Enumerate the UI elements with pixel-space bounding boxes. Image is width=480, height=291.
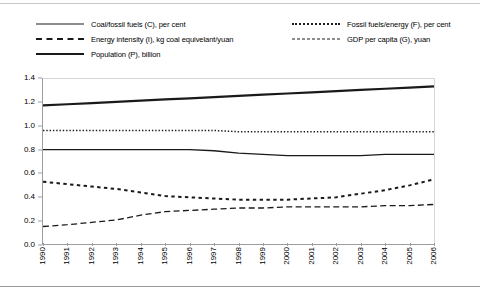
x-axis-tick-label: 1990	[39, 247, 47, 265]
x-axis-tick-mark	[92, 243, 93, 246]
x-axis-tick-mark	[214, 243, 215, 246]
x-axis-tick-mark	[116, 243, 117, 246]
y-axis-tick-label: 0.4	[1, 193, 35, 201]
x-axis-tick-label: 1995	[161, 247, 169, 265]
x-axis-tick-label: 2005	[406, 247, 414, 265]
x-axis-tick-mark	[361, 243, 362, 246]
x-axis-tick-mark	[67, 243, 68, 246]
bottom-divider	[0, 286, 480, 287]
legend-column-right: Fossil fuels/energy (F), per cent GDP pe…	[292, 17, 480, 47]
series-line	[43, 86, 434, 105]
series-line	[43, 130, 434, 131]
legend-label: Coal/fossil fuels (C), per cent	[91, 20, 185, 29]
y-axis-tick-label: 0.6	[1, 169, 35, 177]
line-style-swatch-icon	[36, 20, 84, 29]
x-axis-tick-label: 2001	[308, 247, 316, 265]
x-axis-tick-mark	[385, 243, 386, 246]
top-divider	[0, 3, 480, 4]
y-axis-tick-label: 0.2	[1, 217, 35, 225]
x-axis-tick-label: 1991	[63, 247, 71, 265]
x-axis-tick-mark	[239, 243, 240, 246]
x-axis-tick-label: 2004	[381, 247, 389, 265]
x-axis-tick-mark	[190, 243, 191, 246]
y-axis-tick-label: 0.8	[1, 146, 35, 154]
x-axis-tick-label: 1992	[88, 247, 96, 265]
plot-area	[42, 78, 435, 245]
legend-item-gdp-per-capita: GDP per capita (G), yuan	[292, 32, 480, 46]
y-axis-tick-label: 0.0	[1, 241, 35, 249]
legend-label: Population (P), billion	[91, 50, 160, 59]
series-line	[43, 179, 434, 199]
series-lines	[42, 78, 435, 245]
y-axis: 0.00.20.40.60.81.01.21.4	[0, 74, 40, 249]
x-axis-tick-mark	[434, 243, 435, 246]
series-line	[43, 204, 434, 226]
chart-figure: Coal/fossil fuels (C), per cent Energy i…	[0, 0, 480, 291]
x-axis-tick-label: 1998	[235, 247, 243, 265]
legend-item-fossil-fuels-energy: Fossil fuels/energy (F), per cent	[292, 17, 480, 31]
chart-legend: Coal/fossil fuels (C), per cent Energy i…	[36, 17, 456, 59]
x-axis-tick-mark	[336, 243, 337, 246]
x-axis-tick-label: 1997	[210, 247, 218, 265]
legend-label: Energy intensity (I), kg coal equivelant…	[91, 35, 233, 44]
x-axis-tick-label: 2006	[430, 247, 438, 265]
legend-item-coal-fossil-fuels: Coal/fossil fuels (C), per cent	[36, 17, 288, 31]
x-axis-tick-label: 1994	[137, 247, 145, 265]
legend-item-population: Population (P), billion	[36, 47, 288, 61]
y-axis-tick-label: 1.2	[1, 98, 35, 106]
legend-item-energy-intensity: Energy intensity (I), kg coal equivelant…	[36, 32, 288, 46]
legend-column-left: Coal/fossil fuels (C), per cent Energy i…	[36, 17, 288, 62]
x-axis-tick-mark	[312, 243, 313, 246]
x-axis-tick-label: 1996	[186, 247, 194, 265]
x-axis-tick-mark	[263, 243, 264, 246]
x-axis-tick-label: 1993	[112, 247, 120, 265]
x-axis-tick-mark	[287, 243, 288, 246]
line-style-swatch-icon	[36, 50, 84, 59]
legend-label: GDP per capita (G), yuan	[347, 35, 430, 44]
x-axis: 1990199119921993199419951996199719981999…	[42, 246, 435, 286]
x-axis-tick-label: 1999	[259, 247, 267, 265]
legend-label: Fossil fuels/energy (F), per cent	[347, 20, 450, 29]
y-axis-tick-label: 1.4	[1, 74, 35, 82]
x-axis-tick-mark	[43, 243, 44, 246]
line-style-swatch-icon	[292, 20, 340, 29]
y-axis-tick-label: 1.0	[1, 122, 35, 130]
line-style-swatch-icon	[36, 35, 84, 44]
series-line	[43, 150, 434, 156]
line-style-swatch-icon	[292, 35, 340, 44]
x-axis-tick-mark	[165, 243, 166, 246]
x-axis-tick-mark	[410, 243, 411, 246]
x-axis-tick-label: 2002	[332, 247, 340, 265]
x-axis-tick-label: 2000	[283, 247, 291, 265]
x-axis-tick-label: 2003	[357, 247, 365, 265]
x-axis-tick-mark	[141, 243, 142, 246]
